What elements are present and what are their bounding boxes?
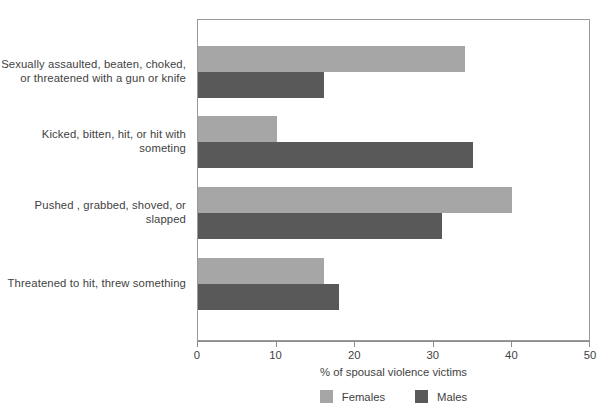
x-tick-label-50: 50 (584, 349, 597, 361)
category-label-3: Pushed , grabbed, shoved, orslapped (0, 198, 186, 227)
x-axis-title: % of spousal violence victims (197, 366, 590, 378)
bar-females-group-1 (198, 46, 465, 72)
x-tick-50 (589, 341, 590, 347)
legend-swatch-males (415, 390, 428, 403)
legend-item-males[interactable]: Males (415, 390, 467, 403)
bar-males-group-1 (198, 72, 324, 98)
category-label-1: Sexually assaulted, beaten, choked,or th… (0, 57, 186, 86)
bar-chart: Sexually assaulted, beaten, choked,or th… (0, 0, 610, 417)
category-label-4: Threatened to hit, threw something (0, 276, 186, 291)
x-tick-label-0: 0 (194, 349, 200, 361)
x-tick-0 (197, 341, 198, 347)
category-label-2-line-2: someting (0, 141, 186, 156)
bar-females-group-2 (198, 116, 277, 142)
category-label-3-line-2: slapped (0, 212, 186, 227)
category-label-1-line-1: Sexually assaulted, beaten, choked, (0, 57, 186, 72)
category-axis-labels: Sexually assaulted, beaten, choked,or th… (0, 19, 192, 341)
category-label-4-line-1: Threatened to hit, threw something (0, 276, 186, 291)
category-label-3-line-1: Pushed , grabbed, shoved, or (0, 198, 186, 213)
category-label-2-line-1: Kicked, bitten, hit, or hit with (0, 127, 186, 142)
chart-legend: FemalesMales (197, 390, 590, 403)
legend-item-females[interactable]: Females (320, 390, 385, 403)
bar-females-group-4 (198, 258, 324, 284)
x-axis-line: 01020304050 (197, 341, 590, 342)
x-tick-40 (511, 341, 512, 347)
x-tick-label-20: 20 (348, 349, 361, 361)
category-label-2: Kicked, bitten, hit, or hit withsometing (0, 127, 186, 156)
legend-swatch-females (320, 390, 333, 403)
category-label-1-line-2: or threatened with a gun or knife (0, 71, 186, 86)
bar-males-group-3 (198, 213, 442, 239)
legend-label-males: Males (437, 391, 467, 403)
x-tick-label-10: 10 (269, 349, 282, 361)
bar-males-group-4 (198, 284, 339, 310)
legend-label-females: Females (342, 391, 385, 403)
plot-area (197, 19, 590, 341)
x-tick-10 (276, 341, 277, 347)
bar-males-group-2 (198, 142, 473, 168)
x-tick-label-40: 40 (505, 349, 518, 361)
x-tick-30 (433, 341, 434, 347)
bar-females-group-3 (198, 187, 512, 213)
x-tick-20 (354, 341, 355, 347)
x-tick-label-30: 30 (427, 349, 440, 361)
